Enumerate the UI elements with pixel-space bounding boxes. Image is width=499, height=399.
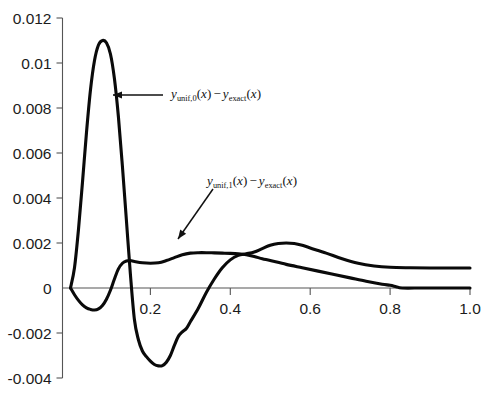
x-tick-label: 1.0 — [459, 300, 481, 317]
y-tick-label: 0.012 — [13, 10, 52, 27]
chart-plot: -0.004-0.00200.0020.0040.0060.0080.010.0… — [0, 0, 499, 399]
y-tick-label: 0.004 — [13, 190, 52, 207]
y-tick-label: -0.004 — [8, 370, 52, 387]
annotation-arrows — [113, 91, 213, 239]
curve-series-0 — [70, 40, 470, 366]
x-tick-label: 0.6 — [299, 300, 321, 317]
x-axis: 0.20.40.60.81.0 — [63, 288, 482, 317]
y-tick-label: -0.002 — [8, 325, 52, 342]
x-tick-label: 0.2 — [140, 300, 162, 317]
x-tick-label: 0.4 — [220, 300, 242, 317]
y-axis: -0.004-0.00200.0020.0040.0060.0080.010.0… — [8, 10, 63, 387]
y-tick-label: 0 — [43, 280, 52, 297]
annotation-label-curve-0: yunif,0(x)−yexact(x) — [171, 86, 261, 102]
annotation-label-curve-1: yunif,1(x)−yexact(x) — [207, 173, 297, 189]
x-tick-label: 0.8 — [379, 300, 401, 317]
y-tick-label: 0.01 — [21, 55, 51, 72]
y-tick-label: 0.008 — [13, 100, 52, 117]
annotation-arrow-line-1 — [178, 189, 213, 239]
y-tick-label: 0.002 — [13, 235, 52, 252]
data-curves — [70, 40, 470, 366]
figure-container: -0.004-0.00200.0020.0040.0060.0080.010.0… — [0, 0, 499, 399]
annotation-arrow-head-1 — [178, 230, 186, 239]
y-tick-label: 0.006 — [13, 145, 52, 162]
